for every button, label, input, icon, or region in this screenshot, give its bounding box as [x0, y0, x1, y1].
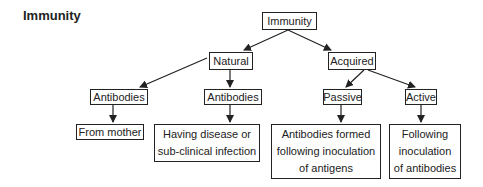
- node-antibodies-formed: Antibodies formed following inoculation …: [271, 124, 381, 179]
- node-label: Active: [406, 89, 436, 106]
- node-label: From mother: [79, 124, 142, 141]
- node-label-line: of antibodies: [394, 160, 456, 177]
- node-natural: Natural: [209, 52, 253, 70]
- node-label-line: Following: [402, 126, 448, 143]
- node-label-line: of antigens: [299, 160, 353, 177]
- node-antibodies-natural-left: Antibodies: [90, 89, 148, 105]
- node-label-line: sub-clinical infection: [158, 143, 256, 160]
- node-label-line: Having disease or: [163, 126, 251, 143]
- node-label: Passive: [323, 89, 362, 106]
- node-label: Immunity: [267, 13, 312, 30]
- node-active: Active: [405, 89, 437, 105]
- node-antibodies-natural-right: Antibodies: [204, 89, 262, 105]
- node-from-mother: From mother: [76, 124, 144, 140]
- node-immunity: Immunity: [262, 12, 317, 30]
- node-label: Natural: [213, 53, 248, 70]
- node-label-line: inoculation: [399, 143, 452, 160]
- node-label: Antibodies: [93, 89, 144, 106]
- node-acquired: Acquired: [328, 52, 376, 70]
- node-label: Acquired: [330, 53, 373, 70]
- node-passive: Passive: [323, 89, 362, 105]
- node-label-line: following inoculation: [277, 143, 375, 160]
- node-label-line: Antibodies formed: [282, 126, 371, 143]
- node-label: Antibodies: [207, 89, 258, 106]
- node-following-inoculation: Following inoculation of antibodies: [389, 124, 461, 179]
- node-having-disease: Having disease or sub-clinical infection: [154, 124, 260, 162]
